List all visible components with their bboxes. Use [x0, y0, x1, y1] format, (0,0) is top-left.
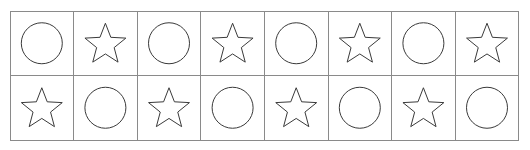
cell-hit-area[interactable] [392, 11, 456, 76]
cell-hit-area[interactable] [455, 76, 519, 141]
shape-grid-canvas [0, 0, 530, 150]
cell-r2-c3-star[interactable] [137, 76, 201, 141]
cell-hit-area[interactable] [10, 11, 74, 76]
cell-hit-area[interactable] [201, 76, 265, 141]
cell-r2-c7-star[interactable] [392, 76, 456, 141]
cell-r1-c1-circle[interactable] [10, 11, 74, 76]
cell-hit-area[interactable] [328, 11, 392, 76]
cell-r2-c5-star[interactable] [264, 76, 328, 141]
cell-hit-area[interactable] [137, 76, 201, 141]
cell-hit-area[interactable] [74, 76, 138, 141]
cell-hit-area[interactable] [10, 76, 74, 141]
cell-r2-c2-circle[interactable] [74, 76, 138, 141]
cell-hit-area[interactable] [137, 11, 201, 76]
cell-r1-c4-star[interactable] [201, 11, 265, 76]
cell-r2-c4-circle[interactable] [201, 76, 265, 141]
cell-r1-c6-star[interactable] [328, 11, 392, 76]
cell-hit-area[interactable] [392, 76, 456, 141]
cell-r2-c1-star[interactable] [10, 76, 74, 141]
cell-r1-c8-star[interactable] [455, 11, 519, 76]
cell-r2-c6-circle[interactable] [328, 76, 392, 141]
cell-r1-c7-circle[interactable] [392, 11, 456, 76]
cell-hit-area[interactable] [264, 11, 328, 76]
cell-r1-c2-star[interactable] [74, 11, 138, 76]
cell-hit-area[interactable] [74, 11, 138, 76]
cell-hit-area[interactable] [455, 11, 519, 76]
cell-hit-area[interactable] [264, 76, 328, 141]
cell-r2-c8-circle[interactable] [455, 76, 519, 141]
cell-hit-area[interactable] [201, 11, 265, 76]
cell-hit-area[interactable] [328, 76, 392, 141]
grid-cells [10, 11, 519, 140]
shape-pattern-grid [0, 0, 530, 150]
cell-r1-c3-circle[interactable] [137, 11, 201, 76]
cell-r1-c5-circle[interactable] [264, 11, 328, 76]
